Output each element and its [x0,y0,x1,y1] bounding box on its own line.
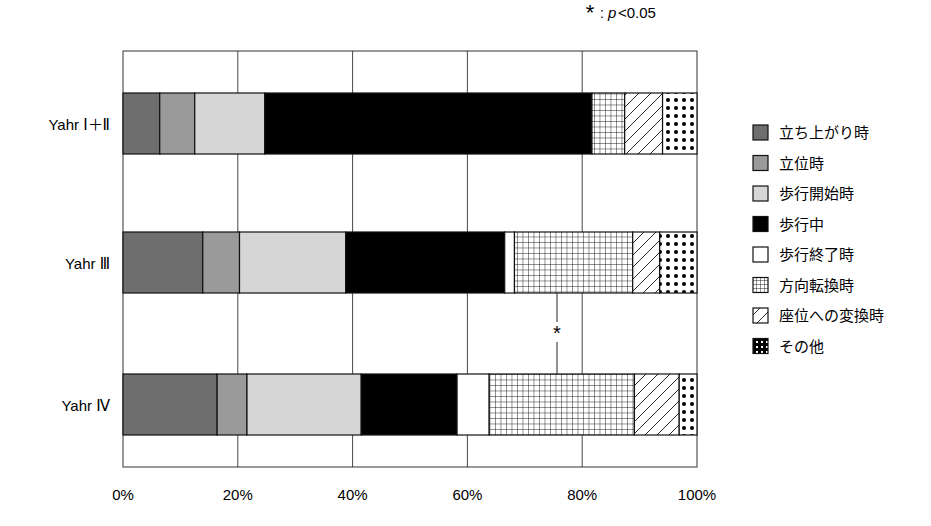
legend-label: 歩行開始時 [779,185,854,203]
bar-segment [489,374,634,435]
bar-1 [123,232,697,293]
legend-label: 立ち上がり時 [779,124,869,142]
legend-swatch [753,156,768,171]
legend-swatch [753,339,768,354]
annotation-threshold: <0.05 [618,4,656,21]
bar-segment [265,93,592,154]
legend-item: 立位時 [753,155,824,173]
bar-segment [679,374,697,435]
legend-swatch [753,278,768,293]
annotation-star: * [586,0,595,25]
bar-segment [633,232,660,293]
significance-marker: * [553,322,561,344]
bar-segment [625,93,663,154]
annotation-p: p [607,4,616,21]
annotation: * : p <0.05 [586,0,656,25]
legend-label: その他 [779,338,824,356]
legend-item: 歩行終了時 [753,246,854,264]
legend-item: 立ち上がり時 [753,124,869,142]
bar-segment [123,93,160,154]
legend-label: 方向転換時 [779,277,854,295]
category-label: Yahr Ⅲ [65,255,110,272]
bar-0 [123,93,697,154]
y-axis-labels: Yahr Ⅰ＋ⅡYahr ⅢYahr Ⅳ [48,116,110,414]
legend-swatch [753,217,768,232]
stacked-bar-chart: * : p <0.05 * Yahr Ⅰ＋ⅡYahr ⅢYahr Ⅳ 0%20%… [0,0,931,526]
bar-segment [195,93,265,154]
bar-segment [457,374,489,435]
x-tick-label: 60% [452,486,482,503]
plot-area: * [123,51,697,467]
legend-swatch [753,186,768,201]
bar-segment [217,374,247,435]
bar-segment [592,93,625,154]
x-axis-ticks: 0%20%40%60%80%100% [112,486,716,503]
bar-segment [203,232,240,293]
x-tick-label: 0% [112,486,134,503]
legend-swatch [753,308,768,323]
annotation-colon: : [600,5,604,21]
x-tick-label: 80% [567,486,597,503]
bar-segment [514,232,632,293]
legend-item: その他 [753,338,824,356]
bar-2 [123,374,697,435]
bar-segment [505,232,515,293]
legend-label: 歩行終了時 [779,246,854,264]
category-label: Yahr Ⅳ [61,397,110,414]
legend-item: 座位への変換時 [753,307,884,325]
category-label: Yahr Ⅰ＋Ⅱ [48,116,110,133]
bar-segment [240,232,346,293]
bar-segment [123,374,217,435]
legend-swatch [753,125,768,140]
legend-label: 座位への変換時 [779,307,884,325]
x-tick-label: 40% [338,486,368,503]
x-tick-label: 100% [678,486,716,503]
bar-segment [160,93,195,154]
legend-item: 歩行中 [753,216,824,234]
legend: 立ち上がり時立位時歩行開始時歩行中歩行終了時方向転換時座位への変換時その他 [753,124,884,356]
legend-item: 歩行開始時 [753,185,854,203]
legend-item: 方向転換時 [753,277,854,295]
bar-segment [663,93,697,154]
legend-label: 立位時 [779,155,824,173]
bar-segment [123,232,203,293]
bar-segment [634,374,679,435]
bar-segment [346,232,505,293]
x-tick-label: 20% [223,486,253,503]
legend-swatch [753,247,768,262]
bar-segment [660,232,697,293]
bar-segment [361,374,457,435]
legend-label: 歩行中 [779,216,824,234]
bar-segment [247,374,361,435]
